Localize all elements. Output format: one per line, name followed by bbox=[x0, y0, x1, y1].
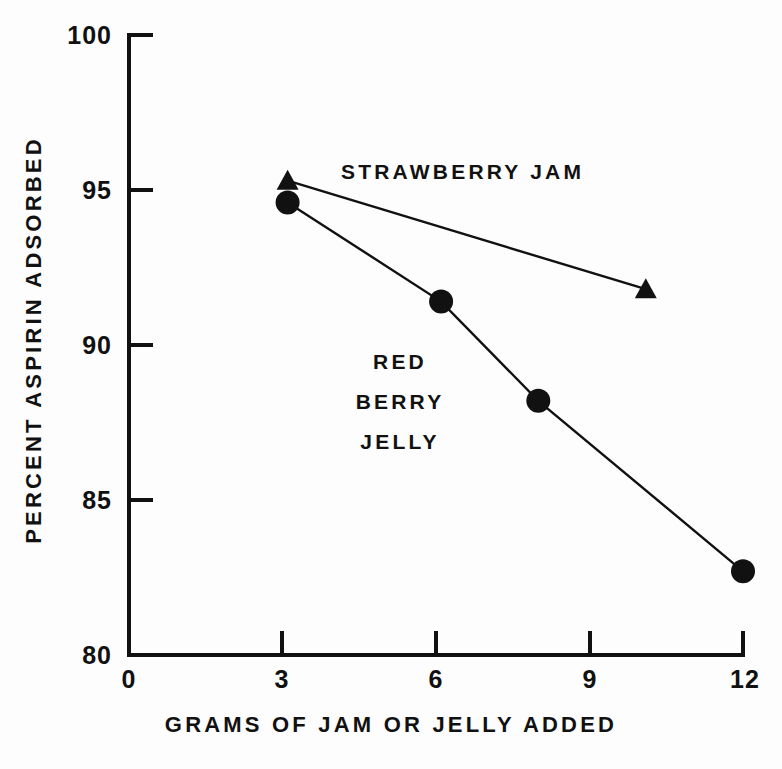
strawberry-jam-marker-2 bbox=[635, 278, 657, 298]
series-label-red-berry-jelly-line-1: RED bbox=[356, 342, 445, 382]
x-tick-label-6: 6 bbox=[429, 665, 444, 694]
y-axis-title: PERCENT ASPIRIN ADSORBED bbox=[21, 40, 47, 640]
strawberry-jam-line bbox=[288, 181, 646, 290]
x-tick-label-0: 0 bbox=[122, 665, 137, 694]
red-berry-jelly-marker-3 bbox=[526, 389, 550, 413]
red-berry-jelly-marker-1 bbox=[276, 190, 300, 214]
series-label-red-berry-jelly-line-2: BERRY bbox=[356, 382, 445, 422]
x-tick-label-3: 3 bbox=[275, 665, 290, 694]
series-label-strawberry-jam: STRAWBERRY JAM bbox=[341, 160, 584, 184]
red-berry-jelly-marker-4 bbox=[731, 559, 755, 583]
series-label-red-berry-jelly-line-3: JELLY bbox=[356, 422, 445, 462]
x-axis-title: GRAMS OF JAM OR JELLY ADDED bbox=[165, 712, 617, 738]
red-berry-jelly-marker-2 bbox=[429, 290, 453, 314]
x-axis-ticks bbox=[282, 631, 743, 655]
x-tick-label-9: 9 bbox=[583, 665, 598, 694]
y-axis-ticks bbox=[129, 35, 153, 500]
chart-figure: 100 95 90 85 80 0 3 6 9 12 GRAMS OF JAM … bbox=[0, 0, 782, 769]
series-label-red-berry-jelly: RED BERRY JELLY bbox=[356, 342, 445, 462]
y-tick-label-80: 80 bbox=[20, 641, 112, 670]
x-tick-label-12: 12 bbox=[730, 665, 760, 694]
series-strawberry-jam bbox=[277, 170, 657, 299]
strawberry-jam-marker-1 bbox=[277, 170, 299, 190]
